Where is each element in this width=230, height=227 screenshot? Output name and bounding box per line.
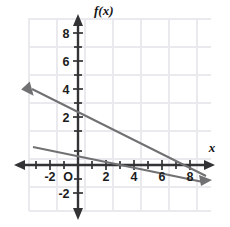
x-tick-label-4: 4 xyxy=(131,170,138,184)
origin-label: O xyxy=(63,170,73,184)
chart-background xyxy=(0,0,230,227)
x-tick-label-neg2: -2 xyxy=(44,170,55,184)
x-tick-label-6: 6 xyxy=(159,170,166,184)
y-tick-label-8: 8 xyxy=(63,27,70,41)
x-tick-label-8: 8 xyxy=(187,170,194,184)
graph-figure: f(x) x O -2 2 4 6 8 8 6 4 2 -2 xyxy=(0,0,230,227)
x-axis-label: x xyxy=(208,140,216,155)
y-tick-label-4: 4 xyxy=(63,83,70,97)
y-tick-label-6: 6 xyxy=(63,55,70,69)
coordinate-plane-chart: f(x) x O -2 2 4 6 8 8 6 4 2 -2 xyxy=(0,0,230,227)
y-tick-label-neg2: -2 xyxy=(58,187,69,201)
y-axis-label: f(x) xyxy=(94,3,114,18)
x-tick-label-2: 2 xyxy=(103,170,110,184)
y-tick-label-2: 2 xyxy=(63,111,70,125)
